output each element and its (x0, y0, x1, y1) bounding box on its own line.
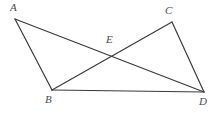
vertex-label-b: B (45, 94, 52, 105)
vertex-label-a: A (10, 2, 17, 13)
geometry-canvas (0, 0, 213, 113)
segments-group (15, 19, 204, 92)
segment-ab (15, 19, 52, 90)
vertex-label-c: C (165, 5, 172, 16)
geometry-figure: A B C D E (0, 0, 213, 113)
vertex-label-d: D (199, 96, 207, 107)
segment-bd (52, 90, 204, 92)
vertex-label-e: E (106, 34, 113, 45)
